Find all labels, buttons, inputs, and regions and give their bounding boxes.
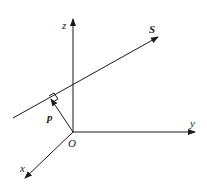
vector-p (51, 99, 73, 132)
x-axis (25, 132, 73, 178)
coordinate-diagram: z y x O S p (0, 0, 207, 193)
x-axis-label: x (19, 162, 25, 174)
vector-p-label: p (46, 111, 53, 123)
line-s (13, 37, 158, 118)
origin-label: O (68, 137, 76, 149)
y-axis-label: y (189, 117, 195, 129)
line-s-label: S (149, 23, 155, 35)
z-axis-label: z (61, 19, 67, 31)
